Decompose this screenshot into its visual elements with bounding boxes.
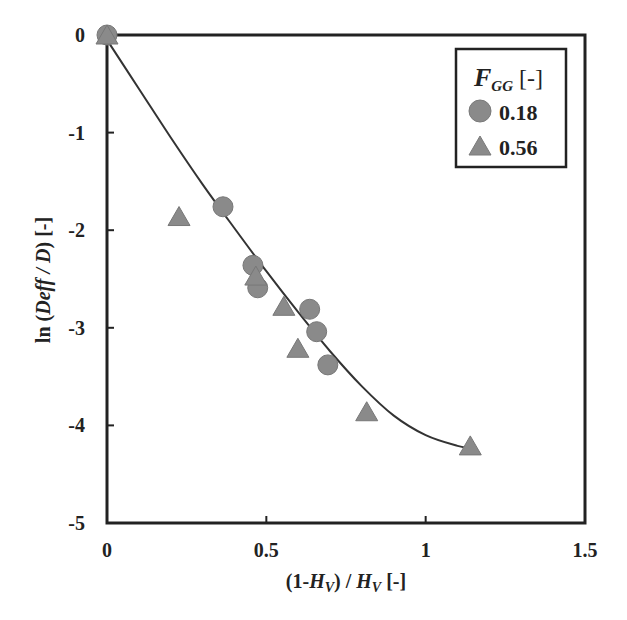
x-tick-label: 1.5 <box>573 539 598 561</box>
legend-item-018: 0.18 <box>499 100 538 125</box>
x-tick-label: 0.5 <box>254 539 279 561</box>
y-tick-label: -5 <box>68 512 85 534</box>
y-tick-label: -1 <box>68 122 85 144</box>
y-axis-title: ln (Deff / D) [-] <box>32 217 55 343</box>
data-point-triangle <box>273 296 295 315</box>
y-tick-label: -2 <box>68 219 85 241</box>
scatter-chart: 00.511.50-1-2-3-4-5 (1-HV) / HV [-] ln (… <box>0 0 627 620</box>
x-axis-title: (1-HV) / HV [-] <box>286 570 406 595</box>
data-point-triangle <box>168 207 190 226</box>
legend: FGG [-] 0.18 0.56 <box>456 49 566 167</box>
x-tick-label: 1 <box>421 539 431 561</box>
legend-item-056: 0.56 <box>499 135 538 160</box>
fit-curve <box>107 40 470 448</box>
data-point-triangle <box>459 436 481 455</box>
data-point-circle <box>300 299 320 319</box>
data-point-triangle <box>356 402 378 421</box>
y-tick-label: -3 <box>68 317 85 339</box>
data-point-circle <box>307 322 327 342</box>
y-tick-label: -4 <box>68 414 85 436</box>
data-point-triangle <box>287 338 309 357</box>
legend-circle-icon <box>469 100 491 122</box>
data-point-circle <box>318 355 338 375</box>
data-markers <box>96 25 481 455</box>
y-tick-label: 0 <box>75 24 85 46</box>
x-tick-label: 0 <box>102 539 112 561</box>
data-point-circle <box>213 197 233 217</box>
